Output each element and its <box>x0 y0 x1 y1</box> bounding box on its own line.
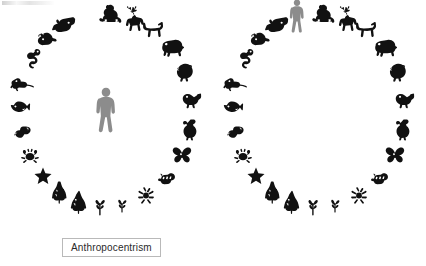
panel-ecocentrism: Ecocentrism <box>213 0 426 266</box>
spider-icon <box>350 187 368 205</box>
boar-icon <box>160 39 184 56</box>
bird-icon <box>182 92 202 107</box>
shrimp-icon <box>226 125 244 138</box>
conifer-icon <box>71 190 88 214</box>
rodent-icon <box>250 32 270 46</box>
organism-ring-anthropocentrism <box>0 0 213 232</box>
crab-icon <box>233 148 253 163</box>
label-anthropocentrism: Anthropocentrism <box>62 238 161 257</box>
boar-icon <box>373 39 397 56</box>
organism-ring-ecocentrism <box>213 0 426 232</box>
human-icon <box>95 87 117 133</box>
deer-icon <box>122 6 144 30</box>
turkey-icon <box>176 63 195 81</box>
crab-icon <box>20 148 40 163</box>
sprout-icon <box>116 197 128 213</box>
conifer-icon <box>284 190 301 214</box>
bee-icon <box>371 172 389 185</box>
fish-icon <box>223 100 243 113</box>
shrub-icon <box>265 181 281 204</box>
human-icon <box>289 0 305 33</box>
dolphin-icon <box>52 18 76 33</box>
starfish-icon <box>247 167 265 185</box>
rodent-icon <box>37 32 57 46</box>
panel-anthropocentrism: Anthropocentrism <box>0 0 213 266</box>
fish-icon <box>10 100 30 113</box>
bee-icon <box>158 172 176 185</box>
monkey-icon <box>312 4 336 22</box>
butterfly-icon <box>385 147 405 165</box>
duck-icon <box>396 119 410 139</box>
deer-icon <box>335 6 357 30</box>
snake-icon <box>25 48 41 70</box>
seedling-icon <box>307 198 320 216</box>
turkey-icon <box>389 63 408 81</box>
spider-icon <box>137 187 155 205</box>
dolphin-icon <box>265 18 289 33</box>
monkey-icon <box>99 4 123 22</box>
figure-canvas: Anthropocentrism Ecocentrism <box>0 0 426 266</box>
sprout-icon <box>329 197 341 213</box>
starfish-icon <box>34 167 52 185</box>
dog-icon <box>142 21 164 37</box>
dog-icon <box>355 21 377 37</box>
shrimp-icon <box>13 125 31 138</box>
seedling-icon <box>94 198 107 216</box>
shrub-icon <box>52 181 68 204</box>
bird-icon <box>395 92 415 107</box>
lizard-icon <box>12 76 36 87</box>
snake-icon <box>238 48 254 70</box>
butterfly-icon <box>172 147 192 165</box>
duck-icon <box>183 119 197 139</box>
lizard-icon <box>225 76 249 87</box>
